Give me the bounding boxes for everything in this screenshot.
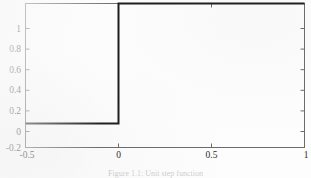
figure-container: 1 0.8 0.6 0.4 0.2 0 -0.2 -0.5 0 0.5 1 Fi…: [0, 0, 311, 178]
ytick-label-0-2: 0.2: [0, 106, 21, 116]
y-axis-ticks-left: [26, 29, 30, 148]
ytick-label-0-6: 0.6: [0, 65, 21, 75]
ytick-label-0-4: 0.4: [0, 85, 21, 95]
x-axis-ticks-bottom: [26, 144, 305, 148]
ytick-label-neg-0-2: -0.2: [0, 143, 21, 153]
step-function-plot: [0, 0, 311, 178]
ytick-label-0: 0: [0, 127, 21, 137]
ytick-label-0-8: 0.8: [0, 44, 21, 54]
xtick-label-neg-0-5: -0.5: [19, 150, 34, 160]
series-unit-step: [26, 4, 305, 124]
figure-caption: Figure 1.1: Unit step function: [0, 169, 311, 178]
y-axis-ticks-right: [301, 29, 305, 148]
ytick-label-1: 1: [0, 24, 21, 34]
xtick-label-0-5: 0.5: [206, 150, 218, 160]
xtick-label-0: 0: [116, 150, 121, 160]
xtick-label-1: 1: [304, 150, 309, 160]
plot-axes-frame: [26, 4, 305, 148]
